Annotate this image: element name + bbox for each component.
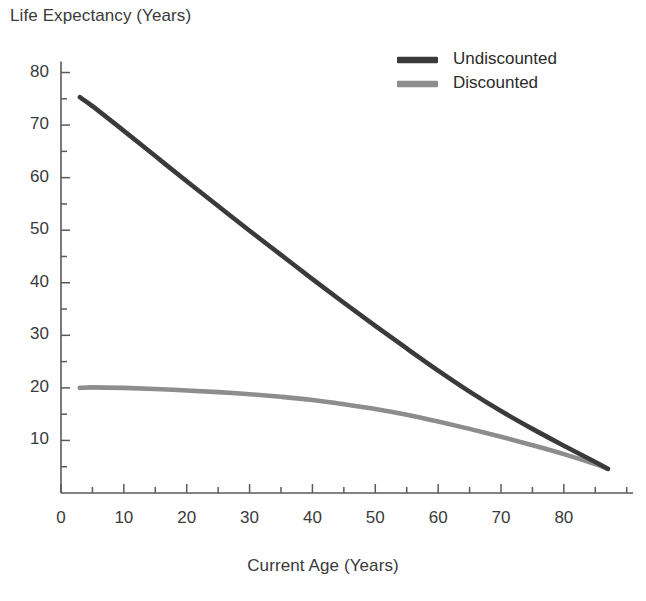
y-tick-label: 60 <box>9 167 49 187</box>
x-tick-label: 40 <box>292 508 332 528</box>
y-tick-label: 40 <box>9 272 49 292</box>
legend-label-discounted: Discounted <box>453 73 538 93</box>
y-tick-label: 80 <box>9 62 49 82</box>
y-tick-label: 20 <box>9 377 49 397</box>
x-tick-label: 70 <box>481 508 521 528</box>
x-tick-label: 0 <box>41 508 81 528</box>
axis-frame <box>61 62 633 494</box>
data-series-group <box>80 97 608 469</box>
legend-label-undiscounted: Undiscounted <box>453 49 557 69</box>
x-tick-label: 30 <box>230 508 270 528</box>
axis-ticks <box>61 73 627 493</box>
chart-figure: Life Expectancy (Years) Current Age (Yea… <box>0 0 646 601</box>
y-tick-label: 50 <box>9 219 49 239</box>
x-tick-label: 20 <box>167 508 207 528</box>
x-tick-label: 60 <box>418 508 458 528</box>
y-tick-label: 30 <box>9 324 49 344</box>
x-tick-label: 10 <box>104 508 144 528</box>
x-tick-label: 80 <box>544 508 584 528</box>
legend-swatch-undiscounted <box>397 57 438 63</box>
legend-swatches <box>397 57 438 87</box>
legend-swatch-discounted <box>397 81 438 87</box>
y-tick-label: 10 <box>9 429 49 449</box>
series-line-undiscounted <box>80 97 608 469</box>
y-tick-label: 70 <box>9 114 49 134</box>
x-tick-label: 50 <box>355 508 395 528</box>
